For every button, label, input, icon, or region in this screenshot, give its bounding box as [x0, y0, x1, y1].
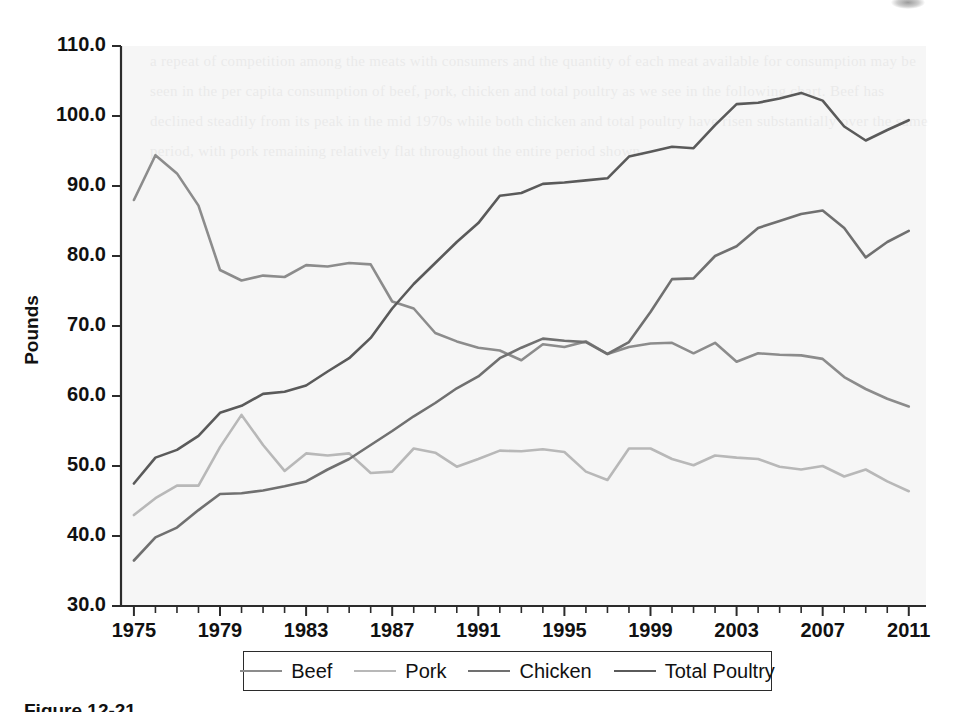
x-axis-tick-label: 2003	[714, 619, 759, 641]
y-axis-tick-label: 110.0	[57, 33, 106, 55]
figure-page: a repeat of competition among the meats …	[0, 0, 955, 712]
x-axis-tick-label: 2011	[887, 619, 930, 641]
x-axis-tick-label: 1999	[628, 619, 673, 641]
x-axis-tick-label: 1983	[284, 619, 329, 641]
legend-item-pork[interactable]: Pork	[354, 660, 446, 683]
legend-item-label: Chicken	[519, 660, 591, 683]
y-axis-tick-label: 70.0	[67, 313, 106, 335]
series-line-chicken	[134, 211, 909, 561]
x-axis: 1975197919831987199119951999200320072011	[112, 606, 931, 641]
x-axis-tick-label: 1979	[198, 619, 243, 641]
legend-item-label: Total Poultry	[665, 660, 775, 683]
y-axis-tick-label: 100.0	[56, 103, 106, 125]
legend-item-beef[interactable]: Beef	[240, 660, 332, 683]
chart-legend: BeefPorkChickenTotal Poultry	[243, 651, 772, 691]
line-chart: 30.040.050.060.070.080.090.0100.0110.0 1…	[0, 0, 955, 712]
y-axis-tick-label: 30.0	[67, 593, 106, 615]
series-line-pork	[134, 415, 909, 515]
legend-item-label: Pork	[405, 660, 446, 683]
legend-item-total-poultry[interactable]: Total Poultry	[614, 660, 775, 683]
series-lines	[134, 93, 909, 561]
y-axis-tick-label: 90.0	[67, 173, 106, 195]
y-axis-tick-label: 60.0	[67, 383, 106, 405]
y-axis-tick-label: 80.0	[67, 243, 106, 265]
y-axis-tick-label: 50.0	[67, 453, 106, 475]
legend-line-swatch	[614, 670, 656, 672]
y-axis-tick-label: 40.0	[67, 523, 106, 545]
legend-item-label: Beef	[291, 660, 332, 683]
legend-line-swatch	[240, 670, 282, 672]
legend-line-swatch	[468, 670, 510, 672]
x-axis-tick-label: 2007	[800, 619, 845, 641]
y-axis: 30.040.050.060.070.080.090.0100.0110.0	[56, 33, 121, 615]
legend-line-swatch	[354, 670, 396, 672]
figure-caption: Figure 12-21	[24, 700, 136, 712]
x-axis-tick-label: 1995	[542, 619, 587, 641]
legend-item-chicken[interactable]: Chicken	[468, 660, 591, 683]
x-axis-tick-label: 1975	[112, 619, 157, 641]
y-axis-title: Pounds	[21, 295, 42, 365]
x-axis-tick-label: 1987	[370, 619, 415, 641]
x-axis-tick-label: 1991	[456, 619, 501, 641]
